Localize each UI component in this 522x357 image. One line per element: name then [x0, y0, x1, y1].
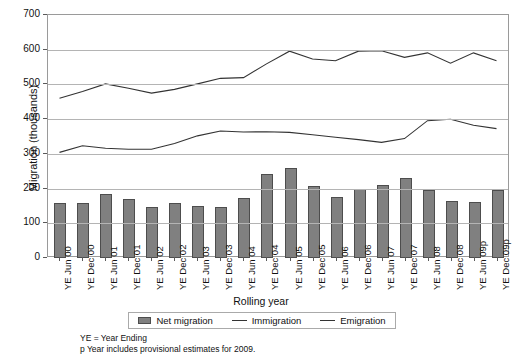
legend-item-label: Emigration: [340, 315, 385, 326]
x-tick-label: YE Dec 01: [132, 245, 142, 290]
x-tick-label: YE Dec 04: [270, 245, 280, 290]
x-tick-mark: [197, 257, 198, 261]
x-tick-label: YE Dec 07: [409, 245, 419, 290]
y-tick-label: 500: [6, 78, 40, 88]
chart-legend: Net migrationImmigrationEmigration: [128, 312, 396, 329]
y-tick-mark: [43, 14, 47, 15]
x-tick-label: YE Dec 00: [86, 245, 96, 290]
x-tick-mark: [474, 257, 475, 261]
x-tick-label: YE Jun 03: [201, 246, 211, 290]
x-tick-mark: [220, 257, 221, 261]
legend-item[interactable]: Emigration: [320, 315, 385, 326]
legend-line-swatch-icon: [232, 320, 247, 321]
x-tick-mark: [128, 257, 129, 261]
legend-bar-swatch-icon: [138, 317, 151, 324]
y-tick-mark: [43, 49, 47, 50]
x-tick-label: YE Jun 00: [63, 246, 73, 290]
x-tick-label: YE Jun 07: [386, 246, 396, 290]
x-tick-label: YE Jun 02: [155, 246, 165, 290]
y-tick-label: 300: [6, 148, 40, 158]
x-tick-mark: [290, 257, 291, 261]
y-tick-label: 600: [6, 44, 40, 54]
x-tick-label: YE Jun 08: [432, 246, 442, 290]
y-tick-label: 100: [6, 217, 40, 227]
x-tick-mark: [313, 257, 314, 261]
y-tick-mark: [43, 153, 47, 154]
x-tick-mark: [243, 257, 244, 261]
x-tick-label: YE Jun 06: [340, 246, 350, 290]
x-tick-label: YE Jun 04: [247, 246, 257, 290]
y-tick-label: 0: [6, 252, 40, 262]
x-tick-mark: [451, 257, 452, 261]
x-tick-mark: [497, 257, 498, 261]
legend-item[interactable]: Immigration: [232, 315, 302, 326]
x-tick-mark: [428, 257, 429, 261]
line-emigration: [60, 119, 497, 152]
x-tick-mark: [359, 257, 360, 261]
chart-footnotes: YE = Year Endingp Year includes provisio…: [80, 333, 255, 355]
legend-line-swatch-icon: [320, 320, 335, 321]
y-tick-mark: [43, 188, 47, 189]
migration-chart: Migration (thousands) 010020030040050060…: [0, 0, 522, 357]
x-tick-label: YE Dec 02: [178, 245, 188, 290]
x-tick-mark: [82, 257, 83, 261]
x-tick-label: YE Dec 08: [455, 245, 465, 290]
gridline: [48, 154, 508, 155]
legend-item-label: Net migration: [156, 315, 213, 326]
gridline: [48, 119, 508, 120]
legend-item-label: Immigration: [252, 315, 302, 326]
y-tick-label: 700: [6, 9, 40, 19]
x-tick-label: YE Jun 01: [109, 246, 119, 290]
gridline: [48, 189, 508, 190]
x-tick-mark: [59, 257, 60, 261]
x-tick-label: YE Jun 05: [294, 246, 304, 290]
line-immigration: [60, 51, 497, 99]
x-tick-mark: [266, 257, 267, 261]
x-tick-mark: [405, 257, 406, 261]
y-tick-label: 400: [6, 113, 40, 123]
y-tick-mark: [43, 83, 47, 84]
x-tick-mark: [105, 257, 106, 261]
lines-layer: [48, 15, 508, 256]
x-tick-label: YE Dec 03: [224, 245, 234, 290]
x-tick-label: YE Jun 09p: [478, 241, 488, 290]
y-tick-mark: [43, 118, 47, 119]
gridline: [48, 223, 508, 224]
x-tick-label: YE Dec 05: [317, 245, 327, 290]
x-tick-label: YE Dec 06: [363, 245, 373, 290]
x-tick-mark: [336, 257, 337, 261]
x-axis-title: Rolling year: [0, 295, 522, 307]
footnote-line: p Year includes provisional estimates fo…: [80, 344, 255, 355]
gridline: [48, 84, 508, 85]
legend-item[interactable]: Net migration: [138, 315, 213, 326]
footnote-line: YE = Year Ending: [80, 333, 255, 344]
x-tick-label: YE Dec 09p: [501, 239, 511, 290]
gridline: [48, 50, 508, 51]
x-tick-mark: [174, 257, 175, 261]
y-tick-label: 200: [6, 183, 40, 193]
y-tick-mark: [43, 257, 47, 258]
x-tick-mark: [151, 257, 152, 261]
plot-area: [47, 14, 509, 257]
x-tick-mark: [382, 257, 383, 261]
y-tick-mark: [43, 222, 47, 223]
